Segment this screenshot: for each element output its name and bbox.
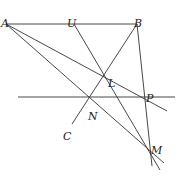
point-label-P: P (145, 92, 154, 105)
point-label-B: B (133, 17, 142, 30)
point-label-M: M (150, 144, 163, 157)
segment-line (6, 24, 167, 111)
point-label-U: U (67, 17, 77, 30)
segment-line (6, 24, 164, 163)
point-label-L: L (107, 77, 115, 90)
point-label-C: C (63, 130, 72, 143)
segment-line (72, 24, 137, 124)
geometry-diagram: AUBLPNCM (0, 0, 183, 176)
point-label-N: N (87, 110, 98, 123)
point-label-A: A (0, 17, 9, 30)
